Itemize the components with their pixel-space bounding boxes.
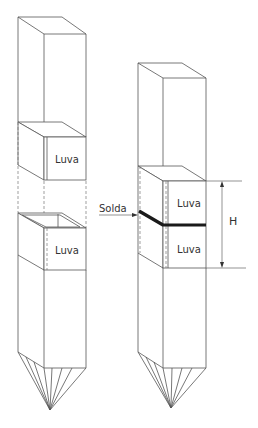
left-pile-tip — [18, 352, 86, 410]
left-lower-sleeve-label: Luva — [55, 245, 79, 256]
weld-label: Solda — [99, 203, 127, 214]
right-upper-shaft — [138, 63, 206, 181]
dimension-arrow-down-icon — [220, 262, 224, 268]
right-pile-tip — [138, 352, 206, 408]
left-lower-sleeve: Luva — [18, 213, 86, 270]
dimension-arrow-up-icon — [220, 181, 224, 187]
left-upper-sleeve-label: Luva — [55, 154, 79, 165]
dimension-h: H — [206, 181, 246, 268]
right-pile: Luva Luva Solda — [99, 63, 246, 408]
right-lower-sleeve-label: Luva — [177, 244, 201, 255]
left-pile: Luva Luva — [18, 17, 86, 410]
right-lower-shaft — [138, 253, 206, 368]
weld-callout: Solda — [99, 203, 138, 217]
dimension-h-label: H — [229, 215, 237, 228]
left-upper-shaft — [18, 17, 86, 137]
right-upper-sleeve-label: Luva — [177, 198, 201, 209]
weld-arrow-icon — [132, 213, 138, 217]
left-lower-shaft — [18, 255, 86, 368]
left-upper-sleeve: Luva — [18, 122, 86, 180]
pile-splice-diagram: Luva Luva — [0, 0, 258, 428]
